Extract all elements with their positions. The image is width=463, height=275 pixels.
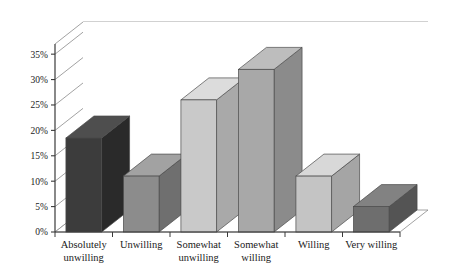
y-axis-tick-label: 20% [31, 126, 49, 136]
x-axis-category-label: unwilling [64, 252, 105, 263]
y-axis-tick-label: 30% [31, 75, 49, 85]
bar-front-face [123, 176, 159, 232]
y-axis-tick-label: 35% [31, 50, 49, 60]
bar-front-face [353, 207, 389, 232]
x-axis-category-label: willing [241, 252, 272, 263]
x-axis-category-label: Very willing [345, 239, 398, 250]
bar-front-face [66, 138, 102, 232]
y-axis-tick-label: 10% [31, 177, 49, 187]
x-axis-category-label: Willing [298, 239, 330, 250]
bar-1 [66, 116, 130, 232]
chart-canvas: 0%5%10%15%20%25%30%35% Absolutelyunwilli… [0, 0, 463, 275]
y-axis-tick-label: 0% [35, 227, 48, 237]
bar-front-face [181, 100, 217, 232]
x-axis-category-label: unwilling [179, 252, 220, 263]
bar-chart: 0%5%10%15%20%25%30%35% Absolutelyunwilli… [0, 0, 463, 275]
y-axis-tick-label: 25% [31, 100, 49, 110]
x-axis-category-label: Unwilling [120, 239, 163, 250]
y-axis-tick-label: 15% [31, 151, 49, 161]
bar-front-face [296, 176, 332, 232]
bar-4 [238, 47, 302, 232]
bar-front-face [238, 69, 274, 232]
x-axis-category-label: Somewhat [177, 239, 221, 250]
bar-3 [181, 78, 245, 232]
y-axis-tick-label: 5% [35, 202, 48, 212]
x-axis-category-label: Somewhat [234, 239, 278, 250]
x-axis-category-label: Absolutely [61, 239, 108, 250]
